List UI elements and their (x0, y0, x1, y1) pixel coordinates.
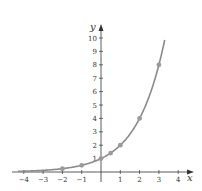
x-tick-label: 2 (137, 176, 141, 184)
x-tick-label: 1 (118, 176, 122, 184)
data-point (99, 156, 104, 161)
x-tick-label: 4 (176, 176, 181, 184)
data-point (79, 163, 84, 168)
x-tick-label: 3 (157, 176, 161, 184)
exponential-chart: −4−3−2−1123412345678910 x y (0, 0, 202, 191)
y-tick-label: 5 (93, 102, 97, 110)
y-tick-label: 8 (93, 61, 97, 69)
y-tick-label: 2 (93, 142, 97, 150)
function-curve (18, 40, 165, 171)
x-tick-label: −2 (57, 176, 67, 184)
y-axis-arrow-icon (99, 24, 104, 31)
x-tick-label: −1 (77, 176, 87, 184)
y-tick-label: 7 (93, 75, 97, 83)
data-points (60, 62, 161, 171)
y-tick-label: 3 (93, 128, 97, 136)
y-tick-label: 6 (93, 88, 98, 96)
x-tick-label: −4 (19, 176, 30, 184)
data-point (157, 62, 162, 67)
x-axis-label: x (187, 172, 193, 183)
y-tick-label: 4 (93, 115, 98, 123)
tick-marks: −4−3−2−1123412345678910 (19, 35, 181, 185)
data-point (60, 166, 65, 171)
data-point (108, 151, 113, 156)
y-tick-label: 9 (93, 48, 97, 56)
x-tick-label: −3 (38, 176, 48, 184)
data-point (118, 143, 123, 148)
data-point (137, 116, 142, 121)
y-tick-label: 10 (88, 35, 97, 43)
y-axis-label: y (89, 21, 96, 32)
